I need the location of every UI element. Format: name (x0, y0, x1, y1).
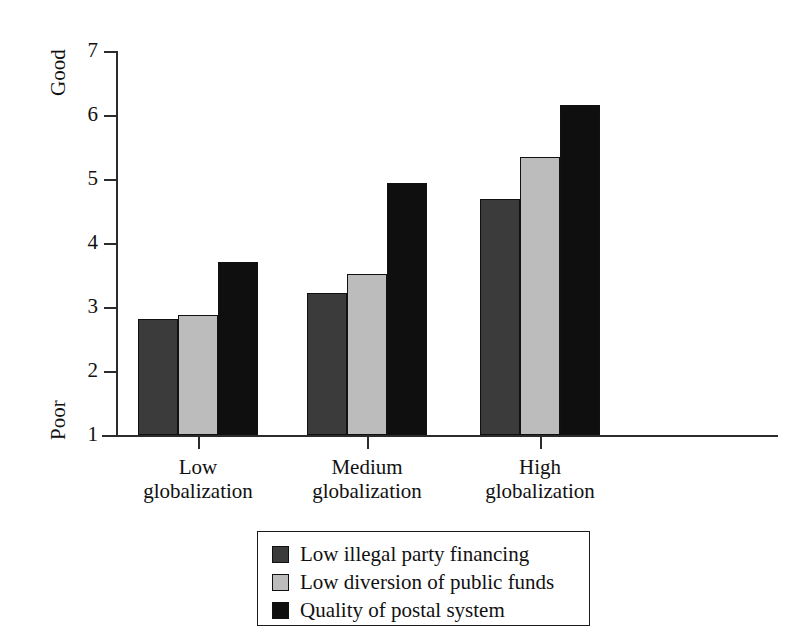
bar-chart-figure: p City governance indicator Good Poor 12… (0, 0, 800, 626)
x-axis-tick (198, 436, 200, 449)
bar (307, 293, 347, 435)
x-axis-tick (367, 436, 369, 449)
y-axis-tick-label: 1 (72, 424, 98, 445)
y-axis-tick-label: 7 (72, 40, 98, 61)
y-axis-tick-label: 4 (72, 232, 98, 253)
legend: Low illegal party financing Low diversio… (257, 531, 590, 626)
y-axis-tick (104, 51, 116, 53)
y-axis-tick-label: 6 (72, 104, 98, 125)
x-axis-tick-label: Highglobalization (430, 455, 650, 503)
y-axis-high-label: Good (46, 49, 71, 96)
bar (347, 274, 387, 435)
bar (560, 105, 600, 435)
legend-swatch-icon (272, 546, 289, 563)
y-axis-tick-label: 2 (72, 360, 98, 381)
bar (520, 157, 560, 435)
x-axis-tick-label-line: High (430, 455, 650, 479)
legend-item-label: Low diversion of public funds (300, 572, 554, 593)
x-axis-line (102, 435, 778, 437)
legend-item: Low illegal party financing (272, 540, 589, 568)
bar (178, 315, 218, 435)
plot-area: 1234567LowglobalizationMediumglobalizati… (116, 51, 778, 435)
y-axis-tick (104, 115, 116, 117)
bar (138, 319, 178, 435)
bar (218, 262, 258, 435)
legend-swatch-icon (272, 574, 289, 591)
y-axis-tick (104, 179, 116, 181)
y-axis-tick (104, 243, 116, 245)
bar (387, 183, 427, 435)
y-axis-line (116, 51, 118, 436)
x-axis-tick (540, 436, 542, 449)
legend-item: Low diversion of public funds (272, 568, 589, 596)
legend-item-label: Low illegal party financing (300, 544, 529, 565)
x-axis-tick-label-line: globalization (430, 479, 650, 503)
y-axis-tick (104, 307, 116, 309)
y-axis-tick-label: 3 (72, 296, 98, 317)
y-axis-low-label: Poor (46, 400, 71, 440)
legend-item: Quality of postal system (272, 596, 589, 624)
legend-swatch-icon (272, 602, 289, 619)
bar (480, 199, 520, 435)
y-axis-tick-label: 5 (72, 168, 98, 189)
y-axis-tick (104, 371, 116, 373)
y-axis-tick (104, 435, 116, 437)
legend-item-label: Quality of postal system (300, 600, 505, 621)
